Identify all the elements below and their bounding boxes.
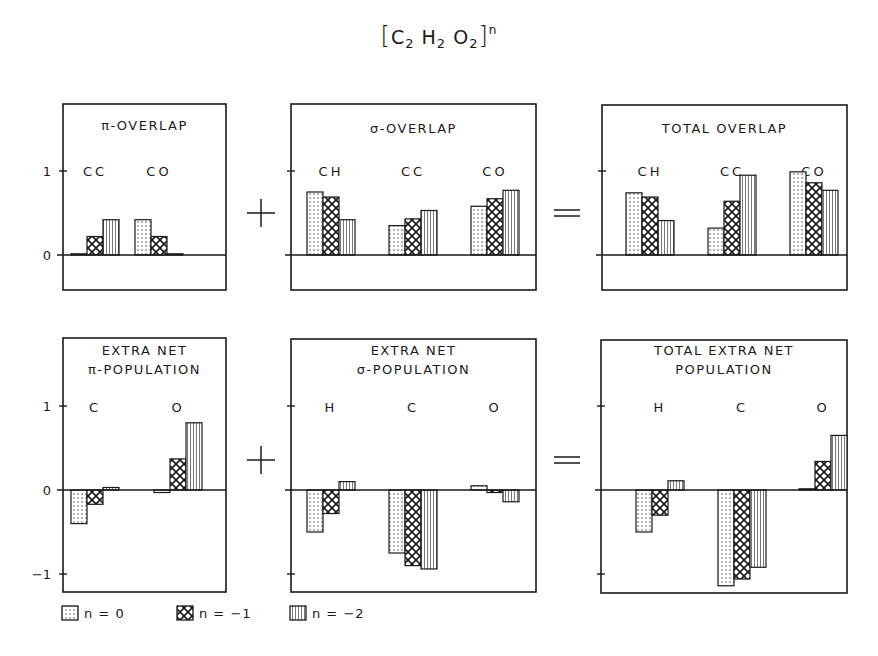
bar: [389, 490, 405, 553]
category-label: C: [736, 400, 748, 415]
legend-swatch-crosshatch: [177, 606, 193, 620]
category-label: CO: [482, 164, 507, 179]
legend-label: n = 0: [84, 606, 125, 621]
bar: [790, 172, 806, 255]
legend-swatch-dots: [62, 606, 78, 620]
bar: [658, 221, 674, 255]
legend-item: n = 0: [62, 606, 125, 621]
panel-title: TOTAL EXTRA NET: [653, 343, 794, 358]
legend-item: n = −1: [177, 606, 252, 621]
category-label: H: [654, 400, 667, 415]
bar: [405, 490, 421, 566]
category-label: CC: [401, 164, 425, 179]
legend: n = 0n = −1n = −2: [62, 606, 365, 621]
category-label: CC: [83, 164, 107, 179]
panel-top-middle: σ-OVERLAPCHCCCO: [285, 104, 536, 290]
panel-title: σ-OVERLAP: [370, 121, 457, 136]
panel-title: TOTAL OVERLAP: [661, 121, 787, 136]
bar: [815, 461, 831, 490]
bar: [339, 482, 355, 490]
bar: [170, 459, 186, 490]
bar: [487, 199, 503, 255]
panel-title: EXTRA NET: [102, 343, 188, 358]
y-tick-label: −1: [32, 567, 51, 582]
category-label: CH: [319, 164, 344, 179]
panel-title: EXTRA NET: [371, 343, 457, 358]
bar: [87, 490, 103, 504]
bar: [71, 490, 87, 524]
category-label: CH: [638, 164, 663, 179]
y-tick-label: 1: [43, 164, 51, 179]
bar: [626, 193, 642, 255]
bar: [806, 183, 822, 255]
bar: [307, 192, 323, 255]
plus-sign: [247, 199, 275, 227]
bar: [642, 197, 658, 255]
chart-canvas: π-OVERLAP01CCCOσ-OVERLAPCHCCCOTOTAL OVER…: [0, 0, 878, 656]
y-tick-label: 1: [43, 399, 51, 414]
bar: [636, 490, 652, 532]
category-label: O: [171, 400, 184, 415]
bar: [652, 490, 668, 515]
panels-layer: π-OVERLAP01CCCOσ-OVERLAPCHCCCOTOTAL OVER…: [32, 104, 847, 593]
category-label: C: [407, 400, 419, 415]
equals-sign: [554, 457, 580, 463]
bar: [151, 237, 167, 255]
bar: [750, 490, 766, 567]
panel-bottom-right: TOTAL EXTRA NETPOPULATIONHCO: [595, 340, 847, 593]
bar: [421, 210, 437, 255]
bar: [734, 490, 750, 579]
bar: [718, 490, 734, 586]
category-label: CO: [146, 164, 171, 179]
legend-label: n = −2: [312, 606, 365, 621]
bar: [103, 220, 119, 255]
bar: [405, 219, 421, 255]
plus-sign: [247, 446, 275, 474]
bar: [87, 237, 103, 255]
bar: [708, 228, 724, 255]
panel-title: POPULATION: [675, 362, 773, 377]
category-label: O: [488, 400, 501, 415]
legend-item: n = −2: [290, 606, 365, 621]
bar: [668, 481, 684, 490]
legend-label: n = −1: [199, 606, 252, 621]
panel-bottom-left: EXTRA NETπ-POPULATION−101CO: [32, 338, 226, 592]
panel-top-left: π-OVERLAP01CCCO: [43, 104, 226, 290]
bar: [831, 435, 847, 490]
category-label: C: [89, 400, 101, 415]
bar: [503, 190, 519, 255]
bar: [471, 206, 487, 255]
category-label: H: [325, 400, 338, 415]
bar: [822, 190, 838, 255]
bar: [503, 490, 519, 502]
bar: [323, 197, 339, 255]
panel-title: π-POPULATION: [88, 362, 201, 377]
bar: [339, 220, 355, 255]
y-tick-label: 0: [43, 483, 51, 498]
panel-top-right: TOTAL OVERLAPCHCCCO: [596, 105, 847, 290]
panel-title: π-OVERLAP: [101, 118, 187, 133]
bar: [186, 423, 202, 490]
panel-title: σ-POPULATION: [357, 362, 471, 377]
bar: [724, 201, 740, 255]
equals-sign: [554, 210, 580, 216]
bar: [307, 490, 323, 532]
category-label: O: [816, 400, 829, 415]
bar: [323, 490, 339, 514]
legend-swatch-vertical-lines: [290, 606, 306, 620]
bar: [389, 226, 405, 255]
y-tick-label: 0: [43, 248, 51, 263]
bar: [135, 220, 151, 255]
bar: [421, 490, 437, 569]
panel-bottom-middle: EXTRA NETσ-POPULATIONHCO: [285, 339, 536, 592]
bar: [740, 175, 756, 255]
